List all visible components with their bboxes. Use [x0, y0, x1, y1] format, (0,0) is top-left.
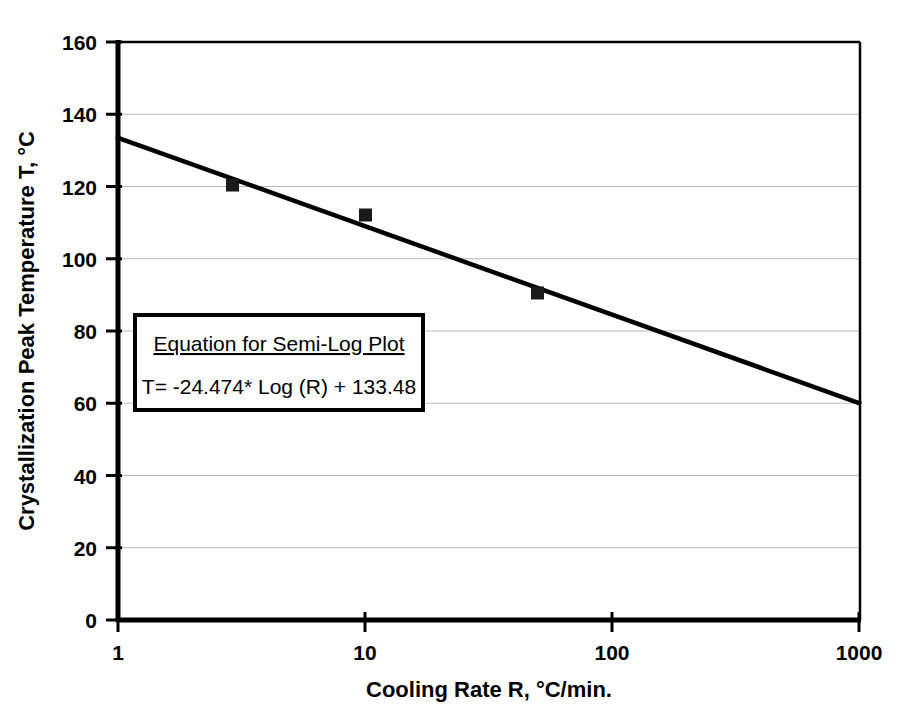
data-point-marker [226, 179, 239, 192]
x-tick-label: 100 [594, 641, 629, 664]
equation-annotation-box: Equation for Semi-Log Plot T= -24.474* L… [135, 315, 423, 410]
y-tick-label: 40 [74, 465, 97, 488]
x-axis-tick-labels: 1 10 100 1000 [112, 641, 882, 664]
data-point-marker [359, 209, 372, 222]
data-point-marker [531, 287, 544, 300]
semi-log-plot: 0 20 40 60 80 100 120 140 160 1 10 100 1… [0, 0, 907, 719]
equation-box-formula: T= -24.474* Log (R) + 133.48 [142, 375, 416, 398]
y-tick-label: 120 [62, 176, 97, 199]
equation-box-heading: Equation for Semi-Log Plot [154, 332, 405, 355]
chart-figure: 0 20 40 60 80 100 120 140 160 1 10 100 1… [0, 0, 907, 719]
y-axis-title: Crystallization Peak Temperature T, °C [14, 131, 39, 531]
y-tick-label: 100 [62, 248, 97, 271]
x-axis-title: Cooling Rate R, °C/min. [366, 677, 612, 702]
y-tick-label: 60 [74, 392, 97, 415]
y-tick-label: 140 [62, 103, 97, 126]
x-tick-label: 1000 [836, 641, 883, 664]
x-tick-label: 10 [353, 641, 376, 664]
y-tick-label: 20 [74, 537, 97, 560]
x-tick-label: 1 [112, 641, 124, 664]
y-axis-tick-labels: 0 20 40 60 80 100 120 140 160 [62, 31, 97, 632]
y-tick-label: 160 [62, 31, 97, 54]
y-tick-label: 0 [85, 609, 97, 632]
y-tick-label: 80 [74, 320, 97, 343]
